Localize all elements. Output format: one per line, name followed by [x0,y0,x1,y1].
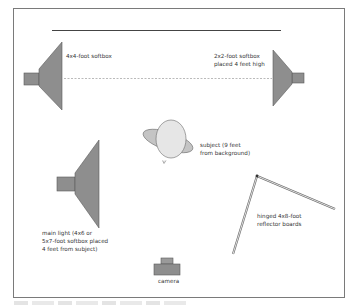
reflector-label-line2: reflector boards [257,221,302,227]
camera-label: camera [158,278,179,284]
softbox-right-label-line1: 2x2-foot softbox [214,53,260,59]
softbox-left-label: 4x4-foot softbox [66,53,112,59]
reflector-label-line1: hinged 4x8-foot [257,213,302,220]
subject-label-line1: subject (9 feet [200,142,241,149]
diagram-canvas: 4x4-foot softbox 2x2-foot softbox placed… [0,0,353,307]
main-light-label-line2: 5x7-foot softbox placed [42,238,109,245]
softbox-right-label-line2: placed 4 feet high [214,61,265,68]
lighting-diagram: 4x4-foot softbox 2x2-foot softbox placed… [0,0,353,307]
main-light-label-line1: main light (4x6 or [42,230,93,237]
faded-caption-strip [14,301,189,305]
subject-label-line2: from background) [200,150,250,157]
main-light-label-line3: 4 feet from subject) [42,246,97,253]
